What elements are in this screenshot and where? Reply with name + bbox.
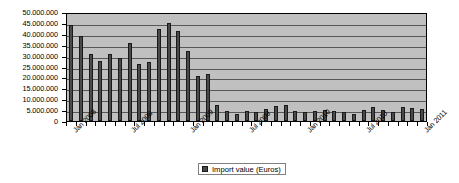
x-axis-tick [222,122,223,126]
x-axis-tick [368,122,369,126]
plot-area [66,13,427,122]
x-axis-tick [193,122,194,126]
bar [235,114,239,121]
x-axis-tick [66,122,67,126]
bar [108,54,112,121]
bar [313,111,317,121]
x-axis-tick [212,122,213,126]
x-axis-tick [95,122,96,126]
x-axis-tick [417,122,418,126]
bar [157,29,161,121]
x-axis-tick [154,122,155,126]
y-axis-tick-label: 30.000.000 [22,53,58,61]
y-axis-tick-label: 25.000.000 [22,64,58,72]
x-axis-tick [144,122,145,126]
x-axis-tick [407,122,408,126]
y-axis-tick-label: 20.000.000 [22,74,58,82]
chart-legend: Import value (Euros) [198,163,286,175]
x-axis-tick [398,122,399,126]
bar [245,111,249,121]
bar [147,62,151,121]
bar [206,74,210,121]
bar [323,110,327,121]
bar-chart: 50.000.00045.000.00040.000.00035.000.000… [0,0,459,183]
bar [137,64,141,121]
y-axis-tick-label: 10.000.000 [22,96,58,104]
x-axis-tick [261,122,262,126]
y-axis-tick-label: 15.000.000 [22,85,58,93]
bar [391,112,395,121]
bar [128,43,132,121]
bar [362,110,366,121]
x-axis-tick [427,122,428,126]
x-axis-tick [232,122,233,126]
bar [381,110,385,121]
bar [420,109,424,121]
x-axis-tick [349,122,350,126]
x-axis-tick [378,122,379,126]
x-axis-tick [115,122,116,126]
x-axis-tick [359,122,360,126]
x-axis-tick [300,122,301,126]
x-axis-tick [290,122,291,126]
x-axis-tick [203,122,204,126]
bar [167,23,171,121]
bar [196,76,200,121]
bar [401,107,405,121]
bar [186,51,190,121]
x-axis-tick [329,122,330,126]
bar [342,112,346,121]
y-axis-tick-label: 40.000.000 [22,31,58,39]
x-axis-tick [242,122,243,126]
legend-swatch-icon [202,166,208,172]
x-axis-tick [134,122,135,126]
x-axis-tick [76,122,77,126]
x-axis-tick [320,122,321,126]
bar [176,31,180,121]
bar [215,105,219,121]
bar [98,61,102,121]
x-axis-tick [86,122,87,126]
x-axis-tick [339,122,340,126]
x-axis-tick [105,122,106,126]
bar [293,111,297,121]
x-axis-tick [388,122,389,126]
bar [225,111,229,121]
y-axis-tick-label: 5.000.000 [26,107,58,115]
bar [352,114,356,121]
bar [254,112,258,121]
y-axis: 50.000.00045.000.00040.000.00035.000.000… [0,0,62,183]
x-axis-tick [281,122,282,126]
bar [332,111,336,121]
bar [118,58,122,121]
legend-label: Import value (Euros) [212,165,281,174]
y-axis-tick-label: 45.000.000 [22,20,58,28]
bar [89,54,93,121]
x-axis-tick [125,122,126,126]
x-axis-tick [173,122,174,126]
bars-container [67,14,426,121]
bar [274,106,278,121]
x-axis-ticks [66,122,427,127]
bar [371,107,375,121]
bar [69,25,73,121]
x-axis-tick [251,122,252,126]
x-axis-tick [310,122,311,126]
y-axis-tick-label: 35.000.000 [22,42,58,50]
bar [284,105,288,121]
bar [303,112,307,121]
x-axis-tick [271,122,272,126]
bar [410,108,414,121]
bar [79,36,83,121]
x-axis-tick [183,122,184,126]
y-axis-tick-label: 0 [54,118,58,126]
x-axis-tick [164,122,165,126]
y-axis-tick-label: 50.000.000 [22,9,58,17]
bar [264,109,268,121]
